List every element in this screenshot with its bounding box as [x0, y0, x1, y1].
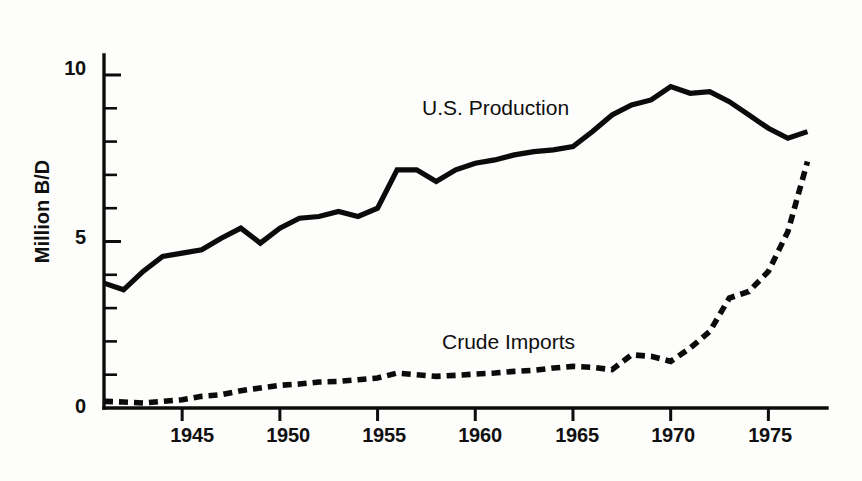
chart-figure: Million B/D 10 5 0 1945 1950 1955 1960 1…: [0, 0, 862, 481]
series-line-crude-imports: [104, 162, 807, 403]
x-tick-marks: [182, 408, 768, 421]
series-line-us-production: [104, 87, 807, 290]
plot-area: [0, 0, 862, 481]
series-group: [104, 87, 807, 403]
y-tick-marks: [104, 75, 121, 375]
axes-group: [104, 55, 827, 421]
